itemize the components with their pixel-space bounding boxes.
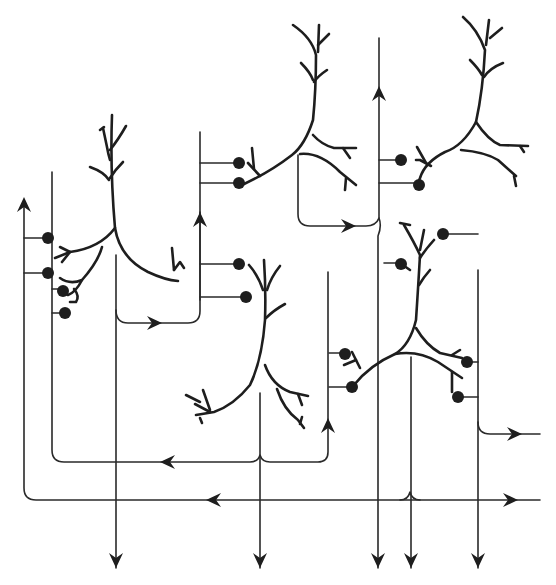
synapse-dot: [233, 157, 245, 169]
synapse-dot: [42, 267, 54, 279]
synapse-dot: [59, 307, 71, 319]
synapse-dot: [57, 285, 69, 297]
synapse-dot: [233, 258, 245, 270]
neuron-1: [42, 115, 184, 319]
neuron-5: [344, 223, 462, 392]
synapse-dot: [339, 348, 351, 360]
synapse-dot: [452, 391, 464, 403]
neuron-2: [233, 25, 356, 190]
synapse-dot: [42, 232, 54, 244]
synapse-dot: [240, 291, 252, 303]
synapse-dot: [346, 381, 358, 393]
neuron-3: [395, 17, 528, 191]
neuron-4: [186, 258, 308, 428]
neural-circuit-diagram: [0, 0, 556, 585]
synapse-dot: [233, 177, 245, 189]
synapse-dot: [413, 179, 425, 191]
synapse-dot: [461, 356, 473, 368]
synapse-dot: [395, 154, 407, 166]
synapse-dot: [395, 258, 407, 270]
arrowheads: [17, 86, 522, 568]
synapse-dot: [437, 228, 449, 240]
axon-wires: [24, 38, 540, 568]
